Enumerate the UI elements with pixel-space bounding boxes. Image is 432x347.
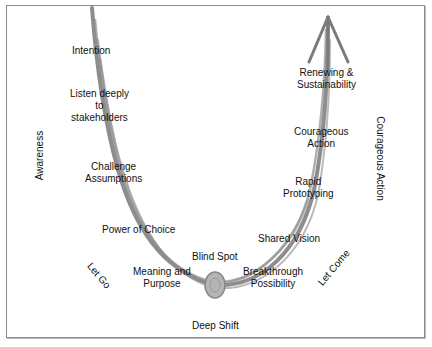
step-line: Courageous xyxy=(294,126,348,138)
step-line: Rapid xyxy=(283,176,334,188)
step-renewing-sustainability: Renewing & Sustainability xyxy=(297,67,356,91)
step-line: Prototyping xyxy=(283,188,334,200)
deep-shift-label: Deep Shift xyxy=(192,320,239,332)
step-line: Breakthrough xyxy=(243,266,303,278)
step-line: Challenge xyxy=(85,161,142,173)
step-listen-deeply: Listen deeply to stakeholders xyxy=(70,88,129,124)
step-line: Renewing & xyxy=(297,67,356,79)
step-line: Purpose xyxy=(133,278,191,290)
step-line: Action xyxy=(294,138,348,150)
step-courageous-action: Courageous Action xyxy=(294,126,348,150)
awareness-axis-label: Awareness xyxy=(34,131,45,180)
step-line: Listen deeply xyxy=(70,88,129,100)
step-rapid-prototyping: Rapid Prototyping xyxy=(283,176,334,200)
step-challenge-assumptions: Challenge Assumptions xyxy=(85,161,142,185)
u-curve-arrow xyxy=(0,0,432,347)
step-power-of-choice: Power of Choice xyxy=(102,224,175,236)
step-line: stakeholders xyxy=(70,112,129,124)
step-intention: Intention xyxy=(72,45,110,57)
step-shared-vision: Shared Vision xyxy=(258,233,320,245)
step-line: Meaning and xyxy=(133,266,191,278)
step-line: Possibility xyxy=(243,278,303,290)
step-meaning-and-purpose: Meaning and Purpose xyxy=(133,266,191,290)
courageous-action-axis-label: Courageous Action xyxy=(375,116,386,201)
step-line: to xyxy=(70,100,129,112)
deep-shift-circle-icon xyxy=(205,272,225,298)
step-breakthrough-possibility: Breakthrough Possibility xyxy=(243,266,303,290)
step-blind-spot: Blind Spot xyxy=(192,251,238,263)
step-line: Assumptions xyxy=(85,173,142,185)
step-line: Sustainability xyxy=(297,79,356,91)
